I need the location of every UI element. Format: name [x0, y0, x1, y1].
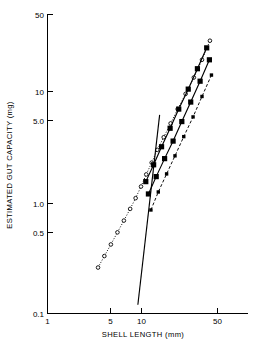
series-open-circle-dotted-marker: [134, 196, 138, 200]
series-open-circle-dotted-marker: [109, 243, 113, 247]
y-ticklabel-10: 10: [35, 88, 44, 97]
series-small-filled-dashed-marker: [182, 135, 185, 138]
series-small-filled-dashed-marker: [165, 172, 168, 175]
plot-axes: [47, 14, 248, 314]
series-open-circle-dotted-line: [98, 41, 210, 268]
x-ticklabel-1: 1: [45, 317, 50, 326]
series-filled-square-solid-lower-marker: [179, 119, 184, 124]
y-ticklabel-1: 1.0: [33, 200, 45, 209]
y-axis-title: ESTIMATED GUT CAPACITY (mg): [5, 101, 14, 229]
series-filled-square-solid-upper-marker: [204, 45, 209, 50]
x-ticklabel-50: 50: [213, 317, 222, 326]
series-open-circle-dotted-marker: [128, 207, 132, 211]
series-filled-square-solid-upper-marker: [186, 87, 191, 92]
series-open-circle-dotted-marker: [103, 254, 107, 258]
series-small-filled-dashed-marker: [157, 190, 160, 193]
x-axis-title: SHELL LENGTH (mm): [102, 330, 185, 339]
series-open-circle-dotted: [96, 39, 211, 269]
series-small-filled-dashed-marker: [173, 154, 176, 157]
series-filled-square-solid-lower: [146, 57, 212, 196]
series-filled-square-solid-upper-marker: [176, 106, 181, 111]
series-open-circle-dotted-marker: [96, 266, 100, 270]
y-axis-ticks: [48, 15, 54, 314]
y-axis-tick-labels: 50 10 5.0 1.0 0.5 0.1: [33, 11, 45, 319]
series-filled-square-solid-upper-marker: [159, 144, 164, 149]
series-open-circle-dotted-marker: [208, 39, 212, 43]
series-filled-square-solid-lower-marker: [162, 156, 167, 161]
series-small-filled-dashed-marker: [210, 73, 213, 76]
series-filled-square-solid-upper: [143, 45, 209, 184]
series-filled-square-solid-upper-marker: [143, 179, 148, 184]
y-ticklabel-0.1: 0.1: [33, 310, 45, 319]
series-filled-square-solid-lower-marker: [207, 57, 212, 62]
series-filled-square-solid-lower-marker: [171, 138, 176, 143]
series-filled-square-solid-upper-marker: [195, 66, 200, 71]
series-small-filled-dashed: [149, 73, 213, 211]
series-small-filled-dashed-marker: [191, 115, 194, 118]
series-open-circle-dotted-marker: [144, 173, 148, 177]
gut-capacity-vs-shell-length-chart: 50 10 5.0 1.0 0.5 0.1 1 5 10 50 SHELL LE…: [0, 0, 260, 343]
series-open-circle-dotted-marker: [122, 219, 126, 223]
chart-svg: 50 10 5.0 1.0 0.5 0.1 1 5 10 50 SHELL LE…: [0, 0, 260, 343]
series-filled-square-solid-lower-marker: [154, 174, 159, 179]
y-ticklabel-50: 50: [35, 11, 44, 20]
y-ticklabel-0.5: 0.5: [33, 229, 45, 238]
x-ticklabel-10: 10: [137, 317, 146, 326]
series-filled-square-solid-upper-marker: [168, 126, 173, 131]
series-small-filled-dashed-marker: [200, 95, 203, 98]
series-plain-solid-steep-line: [138, 115, 160, 305]
x-axis-tick-labels: 1 5 10 50: [45, 317, 222, 326]
series-small-filled-dashed-marker: [149, 208, 152, 211]
data-series-layer: [96, 39, 213, 305]
x-ticklabel-5: 5: [108, 317, 113, 326]
x-axis-ticks: [48, 308, 218, 314]
series-filled-square-solid-lower-marker: [198, 79, 203, 84]
series-plain-solid-steep: [138, 115, 160, 305]
series-filled-square-solid-lower-marker: [188, 99, 193, 104]
series-open-circle-dotted-marker: [116, 231, 120, 235]
series-open-circle-dotted-marker: [139, 185, 143, 189]
y-ticklabel-5: 5.0: [33, 117, 45, 126]
